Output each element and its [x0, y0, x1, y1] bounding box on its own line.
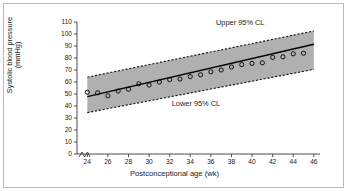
- figure-frame: Systolic blood pressure (mmHg) Postconce…: [3, 3, 344, 188]
- plot-area: [4, 4, 345, 189]
- confidence-band: [87, 31, 314, 113]
- chart-figure: Systolic blood pressure (mmHg) Postconce…: [4, 4, 345, 189]
- axis-break-icon: [79, 152, 90, 157]
